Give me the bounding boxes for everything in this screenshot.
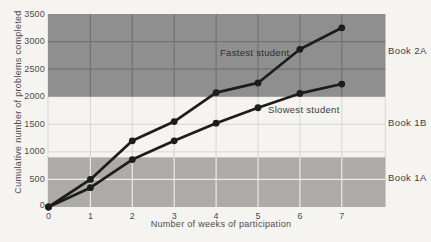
book-label-book-1b: Book 1B bbox=[388, 117, 427, 128]
series-label-slowest: Slowest student bbox=[268, 104, 340, 115]
y-tick-label: 0 bbox=[0, 200, 45, 211]
y-tick-label: 2500 bbox=[0, 64, 45, 75]
data-point-slowest bbox=[129, 156, 136, 163]
data-point-fastest bbox=[255, 80, 262, 87]
data-point-fastest bbox=[129, 137, 136, 144]
book-label-book-1a: Book 1A bbox=[388, 172, 427, 183]
x-tick-label: 4 bbox=[205, 211, 227, 222]
series-label-fastest: Fastest student bbox=[220, 47, 289, 58]
data-point-fastest bbox=[87, 176, 94, 183]
y-tick-label: 2000 bbox=[0, 91, 45, 102]
data-point-slowest bbox=[338, 81, 345, 88]
data-point-slowest bbox=[171, 137, 178, 144]
x-tick-label: 7 bbox=[331, 211, 353, 222]
data-point-slowest bbox=[255, 104, 262, 111]
y-tick-label: 1500 bbox=[0, 119, 45, 130]
data-point-fastest bbox=[171, 118, 178, 125]
data-point-fastest bbox=[338, 24, 345, 31]
x-tick-label: 6 bbox=[289, 211, 311, 222]
x-tick-label: 3 bbox=[163, 211, 185, 222]
y-tick-label: 3000 bbox=[0, 36, 45, 47]
data-point-fastest bbox=[297, 46, 304, 53]
x-tick-label: 2 bbox=[121, 211, 143, 222]
book-label-book-2a: Book 2A bbox=[388, 45, 427, 56]
data-point-slowest bbox=[297, 90, 304, 97]
x-tick-label: 5 bbox=[247, 211, 269, 222]
y-tick-label: 500 bbox=[0, 174, 45, 185]
x-tick-label: 1 bbox=[79, 211, 101, 222]
y-tick-label: 3500 bbox=[0, 9, 45, 20]
x-tick-label: 0 bbox=[38, 211, 60, 222]
data-point-slowest bbox=[213, 120, 220, 127]
plot-area bbox=[0, 0, 431, 242]
y-tick-label: 1000 bbox=[0, 146, 45, 157]
data-point-fastest bbox=[213, 89, 220, 96]
data-point-slowest bbox=[87, 184, 94, 191]
chart-figure: Cumulative number of problems completed … bbox=[0, 0, 431, 242]
data-point-slowest bbox=[45, 204, 52, 211]
